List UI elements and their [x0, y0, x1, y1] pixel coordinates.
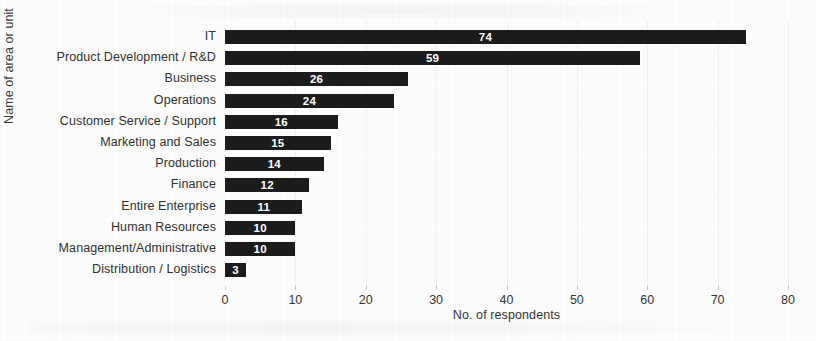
category-label: Production [0, 156, 216, 170]
category-label: Business [0, 71, 216, 85]
bar-value-label: 14 [225, 157, 324, 171]
x-tick-label: 30 [416, 293, 456, 307]
bar-row: Operations24 [225, 91, 788, 112]
x-tick-mark [295, 286, 296, 290]
x-tick-label: 10 [275, 293, 315, 307]
x-tick-label: 20 [346, 293, 386, 307]
bar-row: Human Resources10 [225, 218, 788, 239]
bar-value-label: 10 [225, 221, 295, 235]
x-tick-mark [718, 286, 719, 290]
bar-value-label: 3 [225, 263, 246, 277]
x-tick-label: 70 [698, 293, 738, 307]
bar-value-label: 26 [225, 72, 408, 86]
bar-value-label: 12 [225, 178, 309, 192]
bar-row: Product Development / R&D59 [225, 48, 788, 69]
bar-row: Customer Service / Support16 [225, 112, 788, 133]
bar-value-label: 10 [225, 242, 295, 256]
category-label: Marketing and Sales [0, 135, 216, 149]
x-tick-mark [647, 286, 648, 290]
category-label: Operations [0, 93, 216, 107]
gridline [788, 20, 789, 290]
category-label: Management/Administrative [0, 241, 216, 255]
category-label: IT [0, 29, 216, 43]
x-tick-label: 40 [487, 293, 527, 307]
x-axis-title: No. of respondents [225, 308, 788, 322]
bar-value-label: 59 [225, 51, 640, 65]
category-label: Finance [0, 177, 216, 191]
bar-row: Production14 [225, 154, 788, 175]
bar-row: Management/Administrative10 [225, 239, 788, 260]
x-tick-mark [577, 286, 578, 290]
bar-value-label: 11 [225, 200, 302, 214]
bar-value-label: 16 [225, 115, 338, 129]
category-label: Human Resources [0, 220, 216, 234]
x-axis: 01020304050607080 [225, 290, 788, 291]
category-label: Distribution / Logistics [0, 262, 216, 276]
category-label: Customer Service / Support [0, 114, 216, 128]
x-tick-mark [788, 286, 789, 290]
bar-value-label: 15 [225, 136, 331, 150]
x-tick-label: 0 [205, 293, 245, 307]
x-tick-label: 60 [627, 293, 667, 307]
category-label: Product Development / R&D [0, 50, 216, 64]
x-tick-mark [436, 286, 437, 290]
bar-row: Finance12 [225, 175, 788, 196]
x-tick-mark [366, 286, 367, 290]
bar-row: IT74 [225, 27, 788, 48]
bar-row: Distribution / Logistics3 [225, 260, 788, 281]
x-tick-mark [507, 286, 508, 290]
category-label: Entire Enterprise [0, 199, 216, 213]
bar-value-label: 24 [225, 94, 394, 108]
x-tick-mark [225, 286, 226, 290]
x-tick-label: 80 [768, 293, 808, 307]
bar-row: Entire Enterprise11 [225, 197, 788, 218]
bar-value-label: 74 [225, 30, 746, 44]
x-tick-label: 50 [557, 293, 597, 307]
bar-row: Marketing and Sales15 [225, 133, 788, 154]
scan-smudge-top [120, 2, 680, 20]
plot-area: IT74Product Development / R&D59Business2… [225, 20, 788, 290]
bar-row: Business26 [225, 69, 788, 90]
bar-chart: Name of area or unit IT74Product Develop… [0, 0, 816, 341]
